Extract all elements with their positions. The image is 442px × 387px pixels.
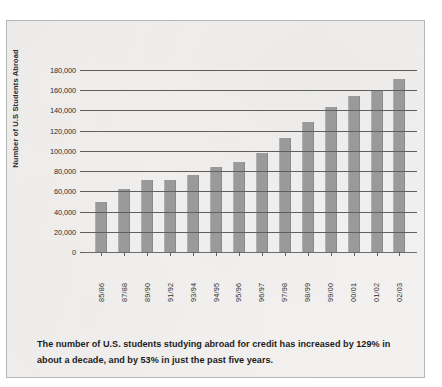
y-tick-mark (80, 90, 84, 91)
x-label-slot: 98/99 (296, 256, 319, 302)
bar-slot (250, 70, 273, 252)
bar (393, 79, 405, 252)
bar-slot (296, 70, 319, 252)
x-tick-label: 91/92 (166, 256, 175, 302)
gridline (84, 90, 417, 91)
x-tick-label: 96/97 (257, 256, 266, 302)
bar (348, 96, 360, 252)
x-label-slot: 85/86 (90, 256, 113, 302)
x-label-slot: 93/94 (182, 256, 205, 302)
y-tick-mark (80, 110, 84, 111)
x-tick-label: 85/86 (97, 256, 106, 302)
y-tick-mark (80, 252, 84, 253)
y-tick-label: 0 (72, 248, 76, 257)
y-tick-label: 60,000 (54, 187, 76, 196)
y-axis-tick-labels: 180,000160,000140,000120,000100,00080,00… (28, 70, 80, 252)
gridline (84, 110, 417, 111)
bar (279, 138, 291, 252)
x-label-slot: 89/90 (136, 256, 159, 302)
x-label-slot: 94/95 (205, 256, 228, 302)
y-tick-label: 40,000 (54, 207, 76, 216)
y-tick-label: 100,000 (50, 146, 76, 155)
gridline (84, 232, 417, 233)
y-axis-title: Number of U.S Students Abroad (11, 47, 20, 171)
x-tick-label: 00/01 (349, 256, 358, 302)
y-tick-mark (80, 232, 84, 233)
bar-slot (228, 70, 251, 252)
x-tick-label: 97/98 (280, 256, 289, 302)
bar-slot (388, 70, 411, 252)
x-label-slot: 91/92 (159, 256, 182, 302)
figure-caption: The number of U.S. students studying abr… (37, 336, 409, 368)
y-tick-mark (80, 151, 84, 152)
y-tick-label: 160,000 (50, 86, 76, 95)
x-tick-label: 95/96 (234, 256, 243, 302)
x-tick-label: 89/90 (143, 256, 152, 302)
gridline (84, 171, 417, 172)
bar-slot (273, 70, 296, 252)
bar-slot (159, 70, 182, 252)
bar-slot (342, 70, 365, 252)
gridline (84, 151, 417, 152)
x-label-slot: 95/96 (228, 256, 251, 302)
bar (256, 153, 268, 252)
bar-series (84, 70, 417, 252)
gridline (84, 70, 417, 71)
bar (187, 175, 199, 252)
bar (95, 202, 107, 252)
y-tick-label: 120,000 (50, 126, 76, 135)
bar-slot (365, 70, 388, 252)
gridline (84, 191, 417, 192)
x-label-slot: 96/97 (250, 256, 273, 302)
bar (325, 107, 337, 252)
gridline (84, 212, 417, 213)
bar (210, 167, 222, 252)
y-tick-mark (80, 70, 84, 71)
y-tick-mark (80, 191, 84, 192)
y-tick-mark (80, 171, 84, 172)
bar-slot (90, 70, 113, 252)
bar-slot (136, 70, 159, 252)
x-tick-label: 93/94 (189, 256, 198, 302)
y-tick-label: 20,000 (54, 227, 76, 236)
x-label-slot: 99/00 (319, 256, 342, 302)
plot-area (84, 70, 417, 253)
x-tick-label: 98/99 (303, 256, 312, 302)
x-label-slot: 02/03 (388, 256, 411, 302)
y-tick-label: 140,000 (50, 106, 76, 115)
y-tick-mark (80, 212, 84, 213)
x-label-slot: 87/88 (113, 256, 136, 302)
gridline (84, 131, 417, 132)
bar-slot (319, 70, 342, 252)
bar-slot (182, 70, 205, 252)
x-tick-label: 99/00 (326, 256, 335, 302)
x-label-slot: 97/98 (273, 256, 296, 302)
x-label-slot: 01/02 (365, 256, 388, 302)
bar-chart: Number of U.S Students Abroad 180,000160… (0, 0, 442, 330)
x-tick-label: 87/88 (120, 256, 129, 302)
x-tick-label: 02/03 (395, 256, 404, 302)
bar-slot (113, 70, 136, 252)
plot-wrapper: 180,000160,000140,000120,000100,00080,00… (28, 70, 418, 266)
x-tick-label: 01/02 (372, 256, 381, 302)
y-tick-label: 80,000 (54, 167, 76, 176)
x-axis-tick-labels: 85/8687/8889/9091/9293/9494/9595/9696/97… (84, 256, 417, 302)
x-tick-label: 94/95 (212, 256, 221, 302)
x-label-slot: 00/01 (342, 256, 365, 302)
bar-slot (205, 70, 228, 252)
bar (233, 162, 245, 252)
y-tick-label: 180,000 (50, 66, 76, 75)
bar (118, 189, 130, 252)
y-tick-mark (80, 131, 84, 132)
